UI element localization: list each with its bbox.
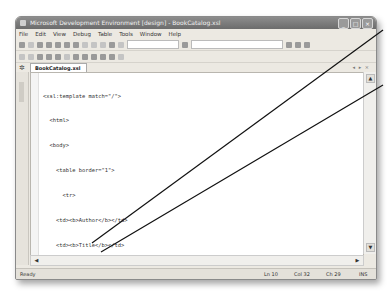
column-number: Col 32 <box>294 269 310 279</box>
word-wrap-icon[interactable] <box>73 54 79 60</box>
app-icon <box>20 20 26 26</box>
editor-margin <box>31 73 39 255</box>
clear-bookmark-icon[interactable] <box>109 54 115 60</box>
minimize-button[interactable]: _ <box>338 18 349 29</box>
menu-view[interactable]: View <box>53 29 66 39</box>
status-bar: Ready Ln 10 Col 32 Ch 29 INS <box>16 268 376 279</box>
horizontal-scrollbar[interactable]: ◀ ▶ <box>30 255 364 266</box>
prev-bookmark-icon[interactable] <box>100 54 106 60</box>
copy-icon[interactable] <box>73 42 79 48</box>
bookmark-icon[interactable] <box>82 54 88 60</box>
scroll-right-icon[interactable]: ▶ <box>354 257 361 263</box>
vertical-scrollbar[interactable]: ▲ ▼ <box>363 72 376 254</box>
cut-icon[interactable] <box>64 42 70 48</box>
open-icon[interactable] <box>37 42 43 48</box>
standard-toolbar <box>16 39 376 51</box>
close-button[interactable]: × <box>362 18 373 29</box>
status-text: Ready <box>20 269 36 279</box>
menu-debug[interactable]: Debug <box>73 29 91 39</box>
indent-icon[interactable] <box>37 54 43 60</box>
add-item-icon[interactable] <box>28 42 34 48</box>
code-line: <td><b>Title</b></td> <box>43 241 205 249</box>
menu-edit[interactable]: Edit <box>35 29 46 39</box>
menu-help[interactable]: Help <box>169 29 182 39</box>
char-number: Ch 29 <box>326 269 341 279</box>
undo-icon[interactable] <box>91 42 97 48</box>
save-icon[interactable] <box>46 42 52 48</box>
menu-tools[interactable]: Tools <box>119 29 133 39</box>
comment-icon[interactable] <box>55 54 61 60</box>
title-bar: Microsoft Development Environment [desig… <box>16 17 376 29</box>
scroll-left-icon[interactable]: ◀ <box>33 257 40 263</box>
insert-mode: INS <box>359 269 367 279</box>
new-project-icon[interactable] <box>19 42 25 48</box>
code-line: <html> <box>43 116 205 124</box>
ide-window: Microsoft Development Environment [desig… <box>15 16 377 280</box>
menu-bar: File Edit View Debug Table Tools Window … <box>16 29 376 39</box>
line-number: Ln 10 <box>264 269 278 279</box>
code-line: <td><b>Author</b></td> <box>43 216 205 224</box>
code-editor[interactable]: <xsl:template match="/"> <html> <body> <… <box>30 72 364 256</box>
uncomment-icon[interactable] <box>64 54 70 60</box>
design-icon[interactable] <box>28 54 34 60</box>
properties-icon[interactable] <box>295 42 301 48</box>
outdent-icon[interactable] <box>46 54 52 60</box>
view-icon[interactable] <box>19 54 25 60</box>
menu-file[interactable]: File <box>19 29 28 39</box>
paste-icon[interactable] <box>82 42 88 48</box>
window-title: Microsoft Development Environment [desig… <box>30 19 221 26</box>
code-line: <xsl:template match="/"> <box>43 92 205 100</box>
menu-window[interactable]: Window <box>140 29 162 39</box>
scroll-up-icon[interactable]: ▲ <box>366 74 375 83</box>
gear-icon[interactable]: ✲ <box>19 64 25 72</box>
save-all-icon[interactable] <box>55 42 61 48</box>
navigate-icon[interactable] <box>109 42 115 48</box>
tab-controls[interactable]: ◂ ▸ × <box>353 64 370 70</box>
code-text[interactable]: <xsl:template match="/"> <html> <body> <… <box>43 75 205 280</box>
toolbox-toolbar-icon[interactable] <box>304 42 310 48</box>
more-icon[interactable] <box>118 54 124 60</box>
start-icon[interactable] <box>118 42 124 48</box>
next-bookmark-icon[interactable] <box>91 54 97 60</box>
maximize-button[interactable]: □ <box>350 18 361 29</box>
xml-toolbar <box>16 51 376 63</box>
scroll-down-icon[interactable]: ▼ <box>366 243 375 252</box>
toolbox-label[interactable] <box>19 82 24 102</box>
solution-explorer-icon[interactable] <box>286 42 292 48</box>
find-combo[interactable] <box>191 40 283 49</box>
configuration-dropdown[interactable] <box>127 40 179 49</box>
redo-icon[interactable] <box>100 42 106 48</box>
code-line: <body> <box>43 141 205 149</box>
code-line: <tr> <box>43 191 205 199</box>
menu-table[interactable]: Table <box>98 29 112 39</box>
find-icon[interactable] <box>182 42 188 48</box>
code-line: <table border="1"> <box>43 166 205 174</box>
toolbox-sidebar[interactable] <box>16 72 29 265</box>
